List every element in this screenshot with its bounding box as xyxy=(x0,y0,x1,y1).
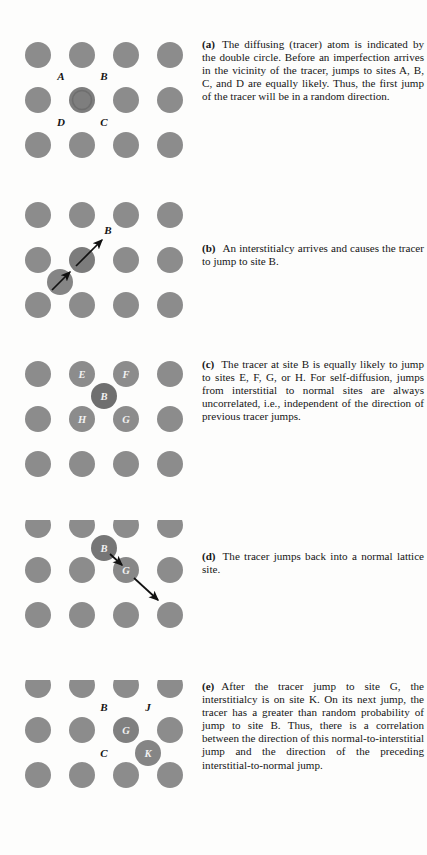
lattice-atom xyxy=(157,602,183,628)
lattice-atom xyxy=(25,680,51,698)
inside-label-F: F xyxy=(121,369,129,380)
lattice-atom xyxy=(25,406,51,432)
lattice-atom xyxy=(113,247,139,273)
lattice-atom xyxy=(113,202,139,228)
lattice-atom xyxy=(113,602,139,628)
lattice-atom xyxy=(25,361,51,387)
site-label-C: C xyxy=(100,747,108,759)
panel-a-caption-text: The diffusing (tracer) atom is indicated… xyxy=(202,38,424,102)
panel-d-caption: (d)The tracer jumps back into a normal l… xyxy=(202,550,424,576)
site-label-D: D xyxy=(56,116,65,128)
panel-d-caption-text: The tracer jumps back into a normal latt… xyxy=(202,550,424,575)
panel-a-caption: (a)The diffusing (tracer) atom is indica… xyxy=(202,38,424,103)
panel-e-tag: (e) xyxy=(202,680,214,692)
lattice-atom xyxy=(157,717,183,743)
lattice-atom xyxy=(157,247,183,273)
lattice-atom xyxy=(113,42,139,68)
lattice-atom xyxy=(113,762,139,788)
panel-c-caption: (c)The tracer at site B is equally likel… xyxy=(202,358,424,423)
panel-c-caption-text: The tracer at site B is equally likely t… xyxy=(202,358,424,422)
lattice-atom xyxy=(157,451,183,477)
site-label-J: J xyxy=(144,701,151,713)
panel-d-lattice: B G xyxy=(0,520,200,680)
lattice-atom xyxy=(113,520,139,538)
inside-label-G: G xyxy=(122,414,130,425)
lattice-atom xyxy=(113,87,139,113)
panel-e-caption: (e)After the tracer jump to site G, the … xyxy=(202,680,424,772)
inside-label-G: G xyxy=(122,725,130,736)
lattice-atom xyxy=(25,762,51,788)
lattice-atom xyxy=(113,680,139,698)
site-label-B: B xyxy=(99,701,107,713)
lattice-atom xyxy=(25,42,51,68)
panel-d-tag: (d) xyxy=(202,550,216,562)
panel-e-caption-text: After the tracer jump to site G, the int… xyxy=(202,680,424,771)
lattice-atom xyxy=(25,292,51,318)
panel-b-caption-text: An interstitialcy arrives and causes the… xyxy=(202,242,424,267)
lattice-atom xyxy=(25,717,51,743)
lattice-atom xyxy=(25,247,51,273)
panel-e-lattice: B J C G K xyxy=(0,680,200,840)
panel-b-lattice: B xyxy=(0,190,200,350)
panel-b-caption: (b)An interstitialcy arrives and causes … xyxy=(202,242,424,268)
arrow-G-onward xyxy=(134,578,158,600)
inside-label-B: B xyxy=(99,543,107,554)
lattice-atom xyxy=(25,557,51,583)
lattice-atom xyxy=(69,717,95,743)
panel-d: B G (d)The tracer jumps back into a norm… xyxy=(0,520,427,680)
lattice-atom xyxy=(157,680,183,698)
inside-label-G: G xyxy=(122,565,130,576)
panel-a-tag: (a) xyxy=(202,38,215,50)
lattice-atom xyxy=(69,602,95,628)
panel-c-tag: (c) xyxy=(202,358,214,370)
lattice-atom xyxy=(69,520,95,538)
lattice-atom xyxy=(25,520,51,538)
lattice-atom xyxy=(69,292,95,318)
lattice-atom xyxy=(113,292,139,318)
lattice-atom xyxy=(69,42,95,68)
lattice-atom xyxy=(157,87,183,113)
lattice-atom xyxy=(69,451,95,477)
lattice-atom xyxy=(69,680,95,698)
lattice-atom xyxy=(157,557,183,583)
lattice-atom xyxy=(157,132,183,158)
site-label-B: B xyxy=(99,70,107,82)
site-label-C: C xyxy=(100,116,108,128)
site-label-A: A xyxy=(56,70,64,82)
panel-c-lattice: E F B H G xyxy=(0,352,200,512)
inside-label-K: K xyxy=(143,748,152,759)
panel-b: B (b)An interstitialcy arrives and cause… xyxy=(0,190,427,350)
inside-label-B: B xyxy=(99,391,107,402)
site-label-B: B xyxy=(103,224,111,236)
panel-a-lattice: A B D C xyxy=(0,30,200,190)
lattice-atom xyxy=(157,202,183,228)
lattice-atom xyxy=(113,451,139,477)
lattice-atom xyxy=(157,520,183,538)
lattice-atom xyxy=(157,292,183,318)
panel-b-tag: (b) xyxy=(202,242,216,254)
lattice-atom xyxy=(25,202,51,228)
lattice-atom xyxy=(69,762,95,788)
lattice-atom xyxy=(157,42,183,68)
inside-label-H: H xyxy=(77,414,87,425)
inside-label-E: E xyxy=(77,369,85,380)
panel-e: B J C G K (e)After the tracer jump to si… xyxy=(0,680,427,855)
lattice-atom xyxy=(69,132,95,158)
lattice-atom xyxy=(25,87,51,113)
lattice-atom xyxy=(157,762,183,788)
lattice-atom xyxy=(157,406,183,432)
lattice-atom xyxy=(157,361,183,387)
lattice-atom xyxy=(69,557,95,583)
panel-a: A B D C (a)The diffusing (tracer) atom i… xyxy=(0,30,427,190)
lattice-atom xyxy=(69,202,95,228)
panel-c: E F B H G (c)The tracer at site B is equ… xyxy=(0,352,427,520)
lattice-atom xyxy=(113,132,139,158)
lattice-atom xyxy=(25,451,51,477)
lattice-atom xyxy=(25,602,51,628)
figure-page: A B D C (a)The diffusing (tracer) atom i… xyxy=(0,0,427,855)
lattice-atom xyxy=(25,132,51,158)
